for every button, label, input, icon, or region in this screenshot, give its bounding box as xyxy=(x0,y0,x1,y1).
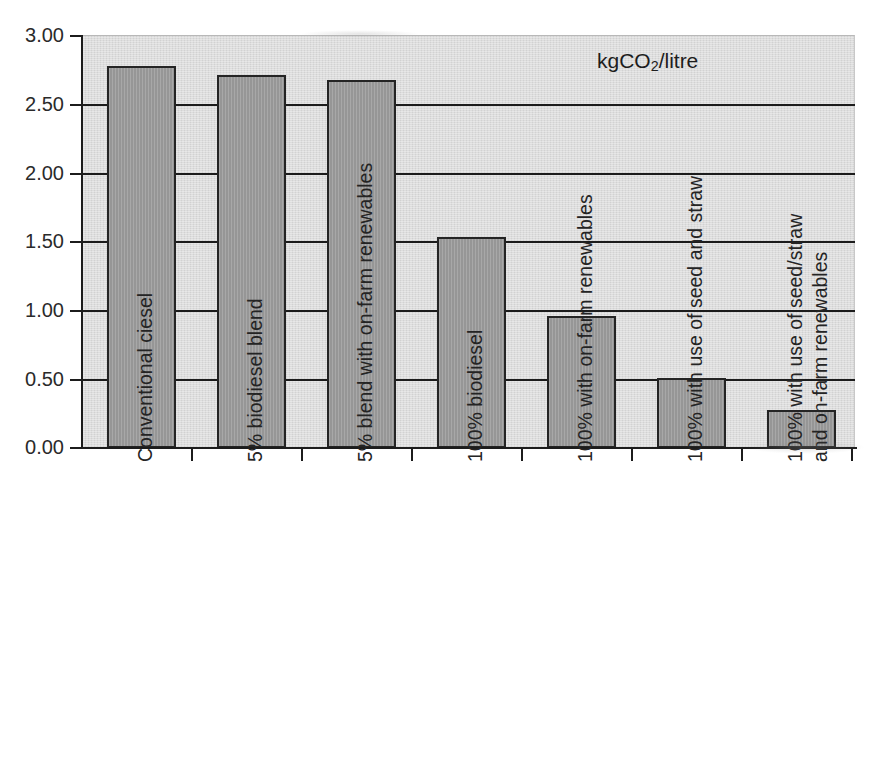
y-tick-1.50 xyxy=(70,241,83,243)
x-tick-5 xyxy=(631,449,633,461)
x-tick-1 xyxy=(191,449,193,461)
bar-chart: 3.00 2.50 2.00 1.50 1.00 0.50 0.00 kgCO2… xyxy=(0,0,875,770)
y-tick-label-0.50: 0.50 xyxy=(25,368,64,391)
x-tick-2 xyxy=(301,449,303,461)
x-axis-label-5pct-blend-on-farm-renewables: 5% blend with on-farm renewables xyxy=(354,163,377,462)
units-subscript: 2 xyxy=(651,58,659,74)
y-tick-2.50 xyxy=(70,104,83,106)
x-axis-label-100pct-seed-and-straw: 100% with use of seed and straw xyxy=(684,176,707,462)
x-tick-6 xyxy=(741,449,743,461)
x-axis-label-line: 5% biodiesel blend xyxy=(244,298,266,462)
y-tick-3.00 xyxy=(70,35,83,37)
x-axis-label-line: 100% with on-farm renewables xyxy=(574,194,596,462)
x-axis-label-100pct-seed-straw-and-on-farm-renewables: 100% with use of seed/straw and on-farm … xyxy=(783,214,833,462)
x-axis-label-5pct-biodiesel-blend: 5% biodiesel blend xyxy=(244,298,267,462)
x-axis-label-100pct-biodiesel: 100% biodiesel xyxy=(464,330,487,462)
x-tick-3 xyxy=(411,449,413,461)
units-annotation: kgCO2/litre xyxy=(597,49,698,74)
x-axis-label-line-2: and on-farm renewables xyxy=(808,214,833,462)
y-tick-label-2.00: 2.00 xyxy=(25,162,64,185)
y-tick-0.50 xyxy=(70,379,83,381)
y-tick-label-0.00: 0.00 xyxy=(25,436,64,459)
y-tick-label-1.50: 1.50 xyxy=(25,230,64,253)
x-tick-7 xyxy=(851,449,853,461)
x-axis-label-line: 5% blend with on-farm renewables xyxy=(354,163,376,462)
x-axis-label-line-1: 100% with use of seed/straw xyxy=(784,214,806,462)
x-axis-label-line: 100% with use of seed and straw xyxy=(684,176,706,462)
y-tick-2.00 xyxy=(70,173,83,175)
y-tick-label-3.00: 3.00 xyxy=(25,24,64,47)
units-prefix: kgCO xyxy=(597,49,651,72)
y-tick-label-2.50: 2.50 xyxy=(25,93,64,116)
y-tick-label-1.00: 1.00 xyxy=(25,299,64,322)
gridline-2.50 xyxy=(82,104,855,106)
x-tick-4 xyxy=(521,449,523,461)
y-tick-0.00 xyxy=(70,447,83,449)
x-axis-label-line: 100% biodiesel xyxy=(464,330,486,462)
gridline-2.00 xyxy=(82,173,855,175)
units-suffix: /litre xyxy=(659,49,699,72)
x-axis-label-line: Conventional ciesel xyxy=(134,293,156,462)
y-tick-1.00 xyxy=(70,310,83,312)
x-axis-label-100pct-on-farm-renewables: 100% with on-farm renewables xyxy=(574,194,597,462)
x-axis-label-conventional-diesel: Conventional ciesel xyxy=(134,293,157,462)
